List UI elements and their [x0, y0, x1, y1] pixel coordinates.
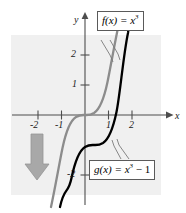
graph-figure: -2 -1 1 2 2 1 -2 x y f(x) = x3 g(x) = x3…: [0, 0, 186, 213]
y-tick-label-pos1: 1: [72, 78, 77, 89]
callout-f-exponent: 3: [135, 13, 139, 21]
plot-area: [0, 0, 186, 213]
x-tick-label-neg1: -1: [55, 119, 63, 130]
y-axis-arrowhead: [82, 12, 89, 19]
y-axis-label: y: [74, 14, 78, 25]
y-tick-label-neg2: -2: [67, 168, 75, 179]
callout-function-f: f(x) = x3: [97, 11, 144, 31]
x-axis-label: x: [175, 110, 179, 121]
x-tick-label-pos1: 1: [106, 119, 111, 130]
callout-f-name: f(x) =: [102, 14, 130, 26]
y-tick-label-pos2: 2: [71, 48, 76, 59]
x-axis-arrowhead: [166, 112, 174, 119]
x-tick-label-neg2: -2: [30, 119, 38, 130]
callout-function-g: g(x) = x3 − 1: [89, 160, 155, 180]
x-tick-label-pos2: 2: [129, 119, 134, 130]
callout-g-name: g(x) =: [94, 163, 125, 175]
callout-g-tail: − 1: [133, 163, 150, 175]
